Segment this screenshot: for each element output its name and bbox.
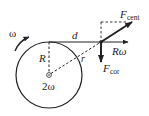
fcor-label: F: [102, 62, 110, 74]
rotation-arrow-icon: [15, 37, 29, 51]
r-omega-label: Rω: [111, 45, 127, 57]
d-label: d: [72, 29, 78, 41]
two-omega-label: 2ω: [42, 80, 55, 92]
fcent-subscript: cent: [127, 13, 140, 22]
center-point: [48, 74, 50, 76]
r-label: r: [81, 53, 85, 64]
fcent-label: F: [119, 8, 127, 20]
coriolis-diagram: ω d R r 2ω F cent Rω F cor: [0, 0, 149, 116]
distance-r-line: [51, 42, 101, 74]
R-label: R: [38, 52, 46, 64]
centrifugal-force-arrow: [101, 22, 132, 42]
omega-label: ω: [9, 27, 16, 39]
fcor-subscript: cor: [110, 67, 120, 76]
